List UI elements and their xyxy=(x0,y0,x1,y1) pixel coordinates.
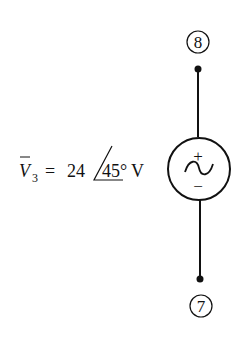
node-8-label: 8 xyxy=(194,33,203,52)
node-8-marker: 8 xyxy=(187,31,209,53)
circuit-diagram: 8 + − 7 V 3 = 24 45° V xyxy=(0,0,247,340)
minus-sign: − xyxy=(193,177,203,196)
ac-voltage-source: + − xyxy=(168,138,230,200)
phasor-subscript: 3 xyxy=(32,171,38,185)
angle-value: 45° xyxy=(102,161,127,181)
source-value-label: V 3 = 24 45° V xyxy=(19,146,144,185)
node-7-marker: 7 xyxy=(190,295,212,317)
unit-label: V xyxy=(131,161,144,181)
equals-sign: = xyxy=(45,161,55,181)
terminal-dot-bottom xyxy=(197,276,204,283)
phasor-variable: V xyxy=(19,161,32,181)
magnitude-value: 24 xyxy=(67,161,85,181)
node-7-label: 7 xyxy=(197,297,206,316)
